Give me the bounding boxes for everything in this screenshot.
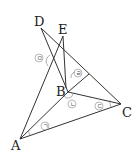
angle-arc-C: [110, 100, 111, 107]
angle-label-5: ㅁ: [37, 54, 43, 61]
angle-label-4: ㄹ: [76, 69, 82, 76]
segment-AB: [20, 92, 68, 139]
angle-label-1: ㄱ: [43, 122, 49, 129]
segment-AC: [20, 104, 121, 139]
geometry-diagram: ㄱ ㄴ ㄷ ㄹ ㅁ D E B C A: [0, 0, 139, 157]
segment-DC: [41, 28, 121, 104]
point-label-E: E: [58, 22, 68, 37]
point-label-C: C: [122, 105, 132, 120]
angle-label-3: ㄷ: [97, 102, 103, 109]
point-label-B: B: [56, 84, 66, 99]
angle-arc-A: [28, 131, 30, 135]
angle-label-2: ㄴ: [70, 100, 76, 107]
point-label-D: D: [34, 14, 44, 29]
angle-arc-E: [46, 55, 50, 66]
segment-BC: [68, 92, 121, 104]
point-label-A: A: [10, 138, 21, 153]
